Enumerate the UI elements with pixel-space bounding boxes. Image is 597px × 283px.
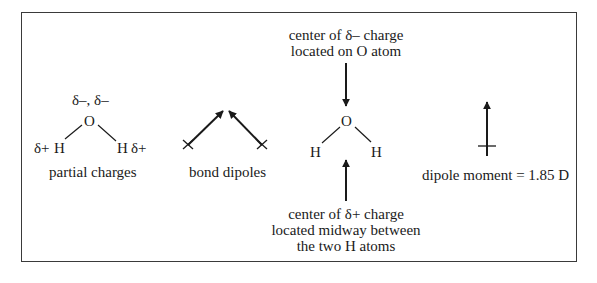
delta-minus-center-label-line2: located on O atom — [276, 43, 416, 59]
oxygen-atom-label: O — [84, 113, 95, 129]
hydrogen-right-label-2: H — [371, 144, 382, 160]
bond-dipoles-caption: bond dipoles — [189, 164, 266, 180]
oxygen-atom-label-2: O — [341, 113, 352, 129]
oxygen-partial-charge: δ–, δ– — [72, 92, 109, 108]
delta-plus-center-label-line3: the two H atoms — [266, 238, 426, 254]
hydrogen-left-label: H — [54, 140, 65, 156]
bond-dipole-arrows — [188, 111, 262, 145]
dipole-moment-caption: dipole moment = 1.85 D — [422, 167, 569, 183]
delta-plus-center-label-line1: center of δ+ charge — [266, 206, 426, 222]
charge-center-bonds — [322, 127, 371, 143]
hydrogen-left-label-2: H — [310, 144, 321, 160]
partial-charges-caption: partial charges — [49, 164, 137, 180]
hydrogen-right-charge: δ+ — [131, 140, 147, 156]
delta-plus-center-label-line2: located midway between — [266, 222, 426, 238]
hydrogen-left-charge: δ+ — [34, 140, 50, 156]
hydrogen-right-label: H — [117, 140, 128, 156]
delta-minus-center-label-line1: center of δ– charge — [276, 27, 416, 43]
dipole-tail-crosses — [183, 140, 267, 149]
